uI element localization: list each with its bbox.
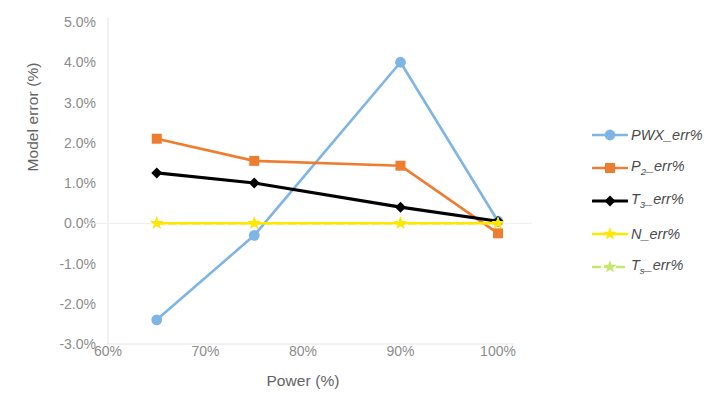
series-t3-err- (151, 167, 503, 226)
legend-key-icon (592, 126, 628, 144)
data-point-marker (394, 216, 407, 228)
legend: PWX_err%P2_err%T3_err%N_err%Ts_err% (592, 118, 706, 283)
legend-item-ts-err-[interactable]: Ts_err% (592, 250, 706, 283)
legend-item-label: PWX_err% (628, 127, 703, 143)
data-point-marker (248, 216, 261, 228)
legend-item-n-err-[interactable]: N_err% (592, 217, 706, 250)
data-point-marker (249, 156, 259, 166)
data-point-marker (603, 227, 616, 239)
data-point-marker (249, 230, 260, 241)
data-point-marker (605, 129, 616, 140)
series-line (157, 139, 498, 234)
data-point-marker (491, 216, 504, 228)
legend-item-label: T3_err% (628, 191, 684, 210)
data-point-marker (150, 216, 163, 228)
legend-item-label: N_err% (628, 226, 680, 242)
legend-key-icon (592, 225, 628, 243)
series-n-err- (150, 216, 504, 228)
chart-container: Model error (%) 5.0%4.0%3.0%2.0%1.0%0.0%… (0, 0, 706, 404)
legend-item-p2-err-[interactable]: P2_err% (592, 151, 706, 184)
data-point-marker (605, 163, 615, 173)
data-point-marker (151, 167, 162, 178)
legend-item-t3-err-[interactable]: T3_err% (592, 184, 706, 217)
data-point-marker (603, 260, 616, 272)
data-point-marker (151, 314, 162, 325)
legend-item-label: P2_err% (628, 158, 685, 177)
legend-item-pwx-err-[interactable]: PWX_err% (592, 118, 706, 151)
data-point-marker (152, 134, 162, 144)
data-point-marker (604, 195, 615, 206)
data-point-marker (249, 177, 260, 188)
data-point-marker (493, 228, 503, 238)
data-point-marker (395, 202, 406, 213)
series-line (157, 62, 498, 320)
legend-key-icon (592, 192, 628, 210)
series-pwx-err- (151, 57, 503, 325)
legend-key-icon (592, 159, 628, 177)
data-point-marker (396, 161, 406, 171)
legend-item-label: Ts_err% (628, 257, 683, 276)
data-point-marker (395, 57, 406, 68)
legend-key-icon (592, 258, 628, 276)
